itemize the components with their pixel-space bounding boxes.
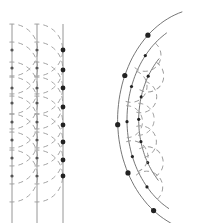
source-point-dot bbox=[10, 156, 13, 159]
wavefront-dot bbox=[61, 68, 66, 73]
source-point-dot bbox=[35, 174, 38, 177]
wavefront-dot bbox=[151, 208, 156, 213]
wavefront-dot bbox=[147, 75, 150, 78]
source-point-dot bbox=[10, 120, 13, 123]
wavelet-arc bbox=[34, 132, 62, 184]
wavelet-arc bbox=[9, 42, 37, 94]
wavefront-dot bbox=[61, 86, 66, 91]
wavelet-arc bbox=[34, 114, 62, 166]
source-point-dot bbox=[35, 156, 38, 159]
wavefront-dot bbox=[145, 185, 148, 188]
source-point-dot bbox=[10, 48, 13, 51]
source-point-dot bbox=[35, 120, 38, 123]
wavelet-arc bbox=[9, 24, 37, 76]
source-point-dot bbox=[35, 138, 38, 141]
wavefront-dot bbox=[61, 174, 66, 179]
spherical-wavefront-arc bbox=[118, 12, 190, 223]
wavefront-dot bbox=[145, 33, 150, 38]
source-point-dot bbox=[10, 66, 13, 69]
huygens-diagram bbox=[0, 0, 210, 223]
wavefront-dot bbox=[125, 170, 130, 175]
wavefront-dot bbox=[61, 105, 66, 110]
source-point-dot bbox=[35, 86, 38, 89]
source-point-dot bbox=[10, 101, 13, 104]
wavefront-dot bbox=[130, 85, 133, 88]
wavelet-arc bbox=[136, 122, 160, 157]
wavelet-arc bbox=[9, 96, 37, 148]
wavelet-arc bbox=[34, 150, 62, 202]
plane-wavefront-panel bbox=[9, 24, 65, 223]
wavefront-diagram-canvas bbox=[0, 0, 210, 223]
wavelet-arc bbox=[34, 24, 62, 76]
wavefront-dot bbox=[61, 48, 66, 53]
wavelet-arc bbox=[34, 96, 62, 148]
wavefront-dot bbox=[139, 140, 142, 143]
wavelet-arc bbox=[138, 103, 154, 135]
wavelet-arc bbox=[9, 114, 37, 166]
source-point-dot bbox=[35, 66, 38, 69]
source-point-dot bbox=[10, 174, 13, 177]
wavefront-dot bbox=[140, 95, 143, 98]
wavefront-dot bbox=[61, 140, 66, 145]
wavelet-arc bbox=[9, 150, 37, 202]
wavefront-dot bbox=[125, 120, 128, 123]
source-point-dot bbox=[10, 138, 13, 141]
wavefront-dot bbox=[137, 118, 140, 121]
wavelet-arc bbox=[9, 132, 37, 184]
wavefront-dot bbox=[131, 155, 134, 158]
wavelet-arc bbox=[34, 42, 62, 94]
wavelet-arc bbox=[136, 81, 160, 116]
spherical-wavefront-arc bbox=[127, 33, 169, 209]
source-point-dot bbox=[10, 86, 13, 89]
wavefront-dot bbox=[115, 122, 120, 127]
wavefront-dot bbox=[122, 73, 127, 78]
wavefront-dot bbox=[144, 54, 147, 57]
spherical-wavefront-panel bbox=[115, 12, 189, 223]
source-point-dot bbox=[35, 48, 38, 51]
wavefront-dot bbox=[61, 123, 66, 128]
wavelet-arc bbox=[126, 105, 143, 137]
source-point-dot bbox=[35, 101, 38, 104]
wavefront-dot bbox=[61, 158, 66, 163]
